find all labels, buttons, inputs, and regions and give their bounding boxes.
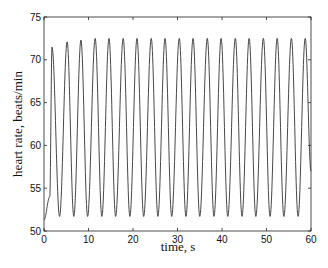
y-tick-label: 75 <box>30 12 42 23</box>
y-tick-label: 70 <box>30 54 42 65</box>
y-tick-label: 50 <box>30 226 42 237</box>
x-tick-label: 40 <box>216 234 228 245</box>
plot-area: 0102030405060505560657075 <box>30 12 317 246</box>
x-tick-label: 50 <box>261 234 273 245</box>
y-tick-label: 60 <box>30 140 42 151</box>
x-axis-label: time, s <box>161 239 196 254</box>
x-tick-label: 20 <box>127 234 139 245</box>
y-tick-label: 65 <box>30 97 42 108</box>
x-tick-label: 60 <box>305 234 317 245</box>
x-tick-label: 0 <box>41 234 47 245</box>
heart-rate-chart: 0102030405060505560657075 time, s heart … <box>0 0 328 268</box>
x-tick-label: 10 <box>83 234 95 245</box>
y-axis-label: heart rate, beats/min <box>10 71 25 177</box>
y-tick-label: 55 <box>30 183 42 194</box>
heart-rate-line <box>44 38 311 219</box>
